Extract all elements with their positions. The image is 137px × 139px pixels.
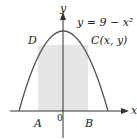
x-axis-label: x bbox=[131, 104, 137, 117]
point-a-label: A bbox=[33, 117, 42, 130]
parabola-rectangle-diagram: y x y = 9 − x² D C(x, y) A B 0 bbox=[0, 0, 137, 139]
origin-label: 0 bbox=[57, 113, 63, 123]
equation-label: y = 9 − x² bbox=[76, 16, 133, 29]
point-d-label: D bbox=[27, 34, 37, 47]
point-c-label: C(x, y) bbox=[91, 34, 127, 47]
y-axis-label: y bbox=[59, 2, 67, 15]
point-b-label: B bbox=[84, 117, 93, 130]
x-axis-arrow-icon bbox=[121, 108, 129, 114]
